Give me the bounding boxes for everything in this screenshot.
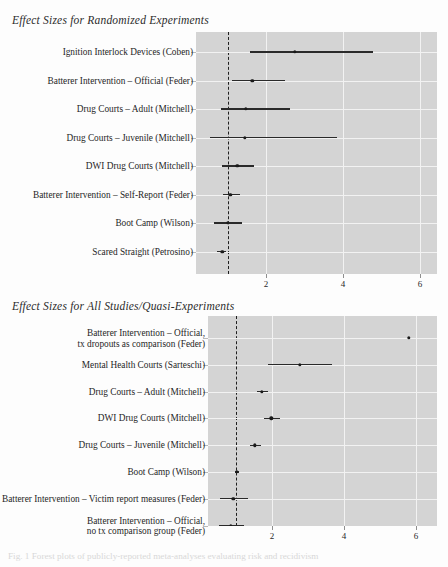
gridline-x-2 [266, 32, 267, 274]
gridline-x-6 [420, 32, 421, 274]
study-label: Ignition Interlock Devices (Coben) [2, 47, 193, 58]
confidence-interval-bar [210, 137, 337, 138]
x-axis-tick [344, 526, 345, 530]
point-estimate-marker [229, 524, 232, 526]
point-estimate-marker [235, 164, 238, 167]
x-axis-tick [416, 526, 417, 530]
study-label: Drug Courts – Adult (Mitchell) [2, 386, 205, 397]
gridline-y [196, 252, 437, 253]
x-axis-label-6: 6 [418, 279, 423, 289]
study-label: Batterer Intervention – Official (Feder) [2, 75, 193, 86]
study-label: Scared Straight (Petrosino) [2, 246, 193, 257]
x-axis-tick [272, 526, 273, 530]
x-axis-label-2: 2 [264, 279, 269, 289]
gridline-x-6 [416, 316, 417, 526]
figure-caption: Fig. 1 Forest plots of publicly-reported… [8, 551, 442, 562]
x-axis-label-4: 4 [342, 531, 347, 541]
gridline-y [208, 445, 437, 446]
study-label: Batterer Intervention – Official, no tx … [2, 515, 205, 536]
panel-title-all-studies: Effect Sizes for All Studies/Quasi-Exper… [12, 300, 234, 312]
study-label: Boot Camp (Wilson) [2, 218, 193, 229]
study-label: DWI Drug Courts (Mitchell) [2, 413, 205, 424]
forest-plot-figure: Effect Sizes for Randomized Experiments … [0, 0, 448, 567]
gridline-x-2 [272, 316, 273, 526]
reference-line-null-effect [228, 32, 229, 274]
gridline-x-4 [344, 316, 345, 526]
study-label: Boot Camp (Wilson) [2, 467, 205, 478]
panel-randomized-experiments: Effect Sizes for Randomized Experiments … [0, 0, 448, 295]
gridline-x-4 [343, 32, 344, 274]
confidence-interval-bar [221, 108, 290, 109]
study-label: Drug Courts – Adult (Mitchell) [2, 104, 193, 115]
point-estimate-marker [235, 470, 238, 473]
point-estimate-marker [407, 336, 410, 339]
plot-area-randomized: Ignition Interlock Devices (Coben)Batter… [0, 32, 448, 296]
point-estimate-marker [244, 107, 247, 110]
study-label: Drug Courts – Juvenile (Mitchell) [2, 440, 205, 451]
gridline-y [208, 418, 437, 419]
point-estimate-marker [243, 136, 246, 139]
x-axis-label-6: 6 [414, 531, 419, 541]
point-estimate-marker [260, 390, 263, 393]
plot-area-all-studies: Batterer Intervention – Official, tx dro… [0, 316, 448, 548]
study-label: Mental Health Courts (Sarteschi) [2, 360, 205, 371]
gridline-y [208, 392, 437, 393]
panel-all-studies: Effect Sizes for All Studies/Quasi-Exper… [0, 295, 448, 550]
study-label: DWI Drug Courts (Mitchell) [2, 161, 193, 172]
x-axis-tick [420, 274, 421, 278]
point-estimate-marker [232, 497, 235, 500]
study-label: Batterer Intervention – Victim report me… [2, 494, 205, 505]
confidence-interval-bar [232, 80, 285, 81]
point-estimate-marker [293, 50, 296, 53]
reference-line-null-effect [236, 316, 237, 526]
point-estimate-marker [226, 221, 229, 224]
point-estimate-marker [298, 363, 301, 366]
study-label: Batterer Intervention – Official, tx dro… [2, 328, 205, 349]
x-axis-label-4: 4 [341, 279, 346, 289]
plot-canvas [208, 316, 437, 526]
panel-title-randomized: Effect Sizes for Randomized Experiments [12, 14, 209, 26]
x-axis-tick [343, 274, 344, 278]
gridline-y [208, 472, 437, 473]
point-estimate-marker [228, 193, 231, 196]
study-label: Batterer Intervention – Self-Report (Fed… [2, 189, 193, 200]
point-estimate-marker [220, 250, 223, 253]
point-estimate-marker [253, 443, 256, 446]
confidence-interval-bar [250, 51, 373, 52]
x-axis-tick [266, 274, 267, 278]
x-axis-label-2: 2 [270, 531, 275, 541]
plot-canvas [196, 32, 437, 274]
point-estimate-marker [250, 79, 253, 82]
study-label: Drug Courts – Juvenile (Mitchell) [2, 132, 193, 143]
gridline-y [208, 338, 437, 339]
